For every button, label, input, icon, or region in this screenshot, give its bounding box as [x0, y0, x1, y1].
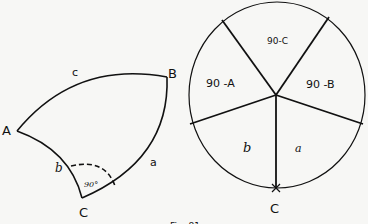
side-b-label: b: [55, 161, 63, 175]
side-c-label: c: [72, 66, 78, 79]
arc-b: [17, 131, 82, 198]
figure-caption: Fig. 81: [170, 221, 200, 224]
segment-a: a: [295, 142, 302, 155]
segment-b: b: [243, 140, 251, 155]
right-angle-label: 90°: [84, 180, 98, 189]
circle-bottom-label: C: [270, 201, 279, 216]
arc-c: [17, 74, 167, 131]
vertex-c-label: C: [79, 205, 88, 220]
spoke-left: [190, 95, 276, 124]
spoke-right: [276, 95, 363, 124]
vertex-b-label: B: [168, 66, 177, 81]
segment-90-a: 90 -A: [206, 77, 235, 90]
side-a-label: a: [150, 156, 157, 169]
napier-circle: [189, 2, 365, 192]
vertex-a-label: A: [2, 123, 11, 138]
segment-90-c: 90-C: [267, 36, 288, 46]
diagram-canvas: A B C c b a 90° 90-C 90 -A 90 -B b a C F…: [0, 0, 368, 224]
segment-90-b: 90 -B: [306, 78, 335, 91]
